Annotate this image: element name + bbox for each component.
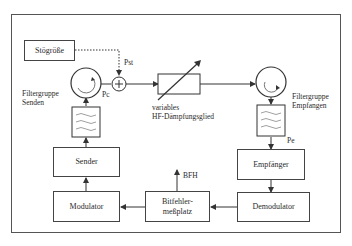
pe-label: Pe xyxy=(287,136,295,145)
modulator-label: Modulator xyxy=(70,202,104,212)
daempfung-label-line1: variables xyxy=(152,103,179,112)
demodulator-label: Demodulator xyxy=(252,202,294,212)
bitfehler-label-line1: Bitfehler- xyxy=(162,197,193,207)
bfh-label: BFH xyxy=(183,171,198,180)
sender-block: Sender xyxy=(53,147,120,177)
empfaenger-block: Empfänger xyxy=(237,149,305,180)
filter-senden-icon xyxy=(72,107,100,137)
demodulator-block: Demodulator xyxy=(237,192,310,222)
adder-icon xyxy=(112,77,126,91)
bitfehler-label-line2: meßplatz xyxy=(163,207,192,217)
pst-label: Pst xyxy=(124,58,133,67)
variable-attenuator-icon xyxy=(158,60,201,100)
stoergroesse-block: Stögröße xyxy=(24,40,75,61)
filter-senden-label-line1: Filtergruppe xyxy=(22,89,59,98)
filter-empfangen-label-line1: Filtergruppe xyxy=(292,92,329,101)
filter-empfangen-icon xyxy=(257,105,285,136)
daempfung-label-line2: HF-Dämpfungsglied xyxy=(152,112,214,121)
bitfehlermessplatz-block: Bitfehler- meßplatz xyxy=(145,191,210,222)
empfaenger-label: Empfänger xyxy=(253,160,289,170)
circulator-empfangen-icon xyxy=(256,67,286,97)
sender-label: Sender xyxy=(75,157,97,167)
stoergroesse-label: Stögröße xyxy=(35,46,64,56)
modulator-block: Modulator xyxy=(53,191,120,222)
filter-senden-label-line2: Senden xyxy=(22,98,44,107)
circulator-senden-icon xyxy=(71,68,101,98)
filter-empfangen-label-line2: Empfangen xyxy=(292,101,327,110)
pc-label: Pc xyxy=(102,90,110,99)
